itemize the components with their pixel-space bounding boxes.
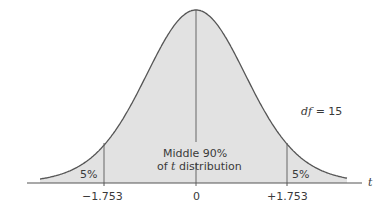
x-axis-label: t [368, 176, 372, 189]
middle-label-line1: Middle 90% [163, 147, 227, 160]
tick-label-right: +1.753 [267, 190, 308, 203]
right-tail-label: 5% [292, 168, 309, 181]
left-tail-label: 5% [80, 168, 97, 181]
tick-label-zero: 0 [193, 190, 200, 203]
tick-label-left: −1.753 [82, 190, 123, 203]
df-label: df = 15 [301, 105, 342, 118]
middle-label-line2: of t distribution [157, 160, 242, 173]
